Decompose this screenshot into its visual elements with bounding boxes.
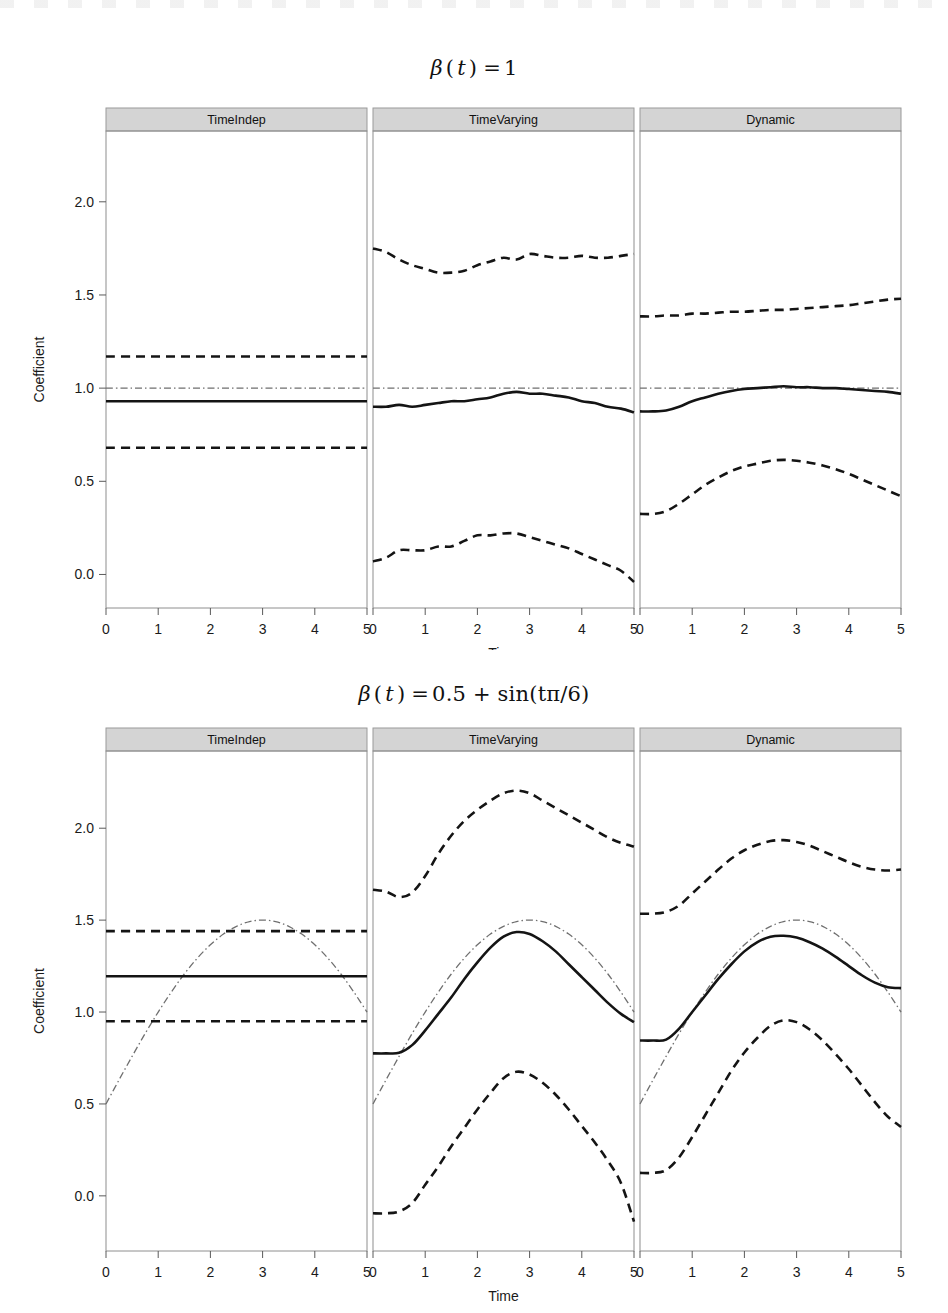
title-paren-close: ) (466, 56, 480, 80)
x-tick-label: 3 (526, 621, 534, 637)
x-tick-label: 2 (207, 621, 215, 637)
figure-1-title: β(t)=1 (0, 0, 948, 80)
x-tick-label: 4 (311, 621, 319, 637)
x-tick-label: 3 (526, 1264, 534, 1280)
strip-label: Dynamic (746, 733, 795, 747)
x-tick-label: 5 (897, 621, 905, 637)
strip-label: TimeIndep (207, 113, 266, 127)
series-estimate (373, 392, 634, 413)
series-truth (106, 920, 367, 1104)
series-lower (373, 533, 634, 582)
title-t: t (385, 682, 394, 706)
title-equals: = (480, 56, 504, 80)
x-tick-label: 1 (688, 1264, 696, 1280)
series-upper (373, 791, 634, 898)
panel-frame (640, 751, 901, 1251)
x-tick-label: 5 (897, 1264, 905, 1280)
panel-timevarying: TimeVarying012345Time (369, 728, 638, 1304)
x-tick-label: 1 (421, 1264, 429, 1280)
x-tick-label: 0 (636, 1264, 644, 1280)
title-equals: = (408, 682, 432, 706)
panel-frame (106, 131, 367, 608)
x-tick-label: 4 (845, 621, 853, 637)
strip-label: TimeVarying (469, 113, 538, 127)
series-upper (640, 299, 901, 317)
figure-beta-constant: β(t)=1 TimeIndep0123450.00.51.01.52.0Coe… (0, 0, 948, 660)
series-estimate (640, 386, 901, 411)
x-tick-label: 3 (259, 621, 267, 637)
x-axis-title: Time (488, 645, 519, 650)
panel-dynamic: Dynamic012345 (636, 108, 905, 637)
x-tick-label: 3 (793, 621, 801, 637)
y-tick-label: 0.5 (75, 473, 95, 489)
title-paren-open: ( (371, 682, 385, 706)
panel-frame (373, 751, 634, 1251)
x-tick-label: 2 (207, 1264, 215, 1280)
series-estimate (640, 936, 901, 1041)
figure-beta-sine: β(t)=0.5 + sin(tπ/6) TimeIndep0123450.00… (0, 660, 948, 1313)
x-tick-label: 2 (741, 621, 749, 637)
series-upper (640, 840, 901, 914)
series-truth (640, 920, 901, 1104)
x-tick-label: 3 (793, 1264, 801, 1280)
panel-frame (640, 131, 901, 608)
x-tick-label: 4 (578, 621, 586, 637)
x-tick-label: 2 (474, 621, 482, 637)
x-tick-label: 1 (154, 1264, 162, 1280)
x-tick-label: 4 (311, 1264, 319, 1280)
figure-1-plot-area: TimeIndep0123450.00.51.01.52.0Coefficien… (0, 80, 948, 650)
y-tick-label: 0.5 (75, 1096, 95, 1112)
x-tick-label: 1 (421, 621, 429, 637)
y-tick-label: 0.0 (75, 566, 95, 582)
series-lower (640, 460, 901, 514)
series-estimate (373, 932, 634, 1054)
x-tick-label: 3 (259, 1264, 267, 1280)
series-truth (373, 920, 634, 1104)
x-tick-label: 0 (102, 621, 110, 637)
strip-label: TimeIndep (207, 733, 266, 747)
x-tick-label: 0 (369, 1264, 377, 1280)
x-tick-label: 4 (845, 1264, 853, 1280)
figure-2-title: β(t)=0.5 + sin(tπ/6) (0, 660, 948, 706)
panel-dynamic: Dynamic012345 (636, 728, 905, 1280)
y-tick-label: 0.0 (75, 1188, 95, 1204)
x-tick-label: 0 (636, 621, 644, 637)
x-tick-label: 4 (578, 1264, 586, 1280)
y-tick-label: 1.0 (75, 380, 95, 396)
panel-timeindep: TimeIndep0123450.00.51.01.52.0Coefficien… (31, 108, 371, 637)
x-tick-label: 2 (474, 1264, 482, 1280)
panel-frame (373, 131, 634, 608)
title-paren-close: ) (394, 682, 408, 706)
title-beta: β (430, 56, 442, 80)
strip-label: Dynamic (746, 113, 795, 127)
x-tick-label: 0 (369, 621, 377, 637)
title-paren-open: ( (443, 56, 457, 80)
y-axis-title: Coefficient (31, 968, 47, 1034)
y-tick-label: 1.5 (75, 287, 95, 303)
series-upper (373, 248, 634, 273)
x-tick-label: 2 (741, 1264, 749, 1280)
x-tick-label: 0 (102, 1264, 110, 1280)
title-t: t (457, 56, 466, 80)
x-tick-label: 1 (688, 621, 696, 637)
y-tick-label: 2.0 (75, 820, 95, 836)
title-rhs: 1 (504, 56, 518, 80)
y-tick-label: 1.5 (75, 912, 95, 928)
panel-timevarying: TimeVarying012345Time (369, 108, 638, 650)
x-tick-label: 1 (154, 621, 162, 637)
strip-label: TimeVarying (469, 733, 538, 747)
panel-timeindep: TimeIndep0123450.00.51.01.52.0Coefficien… (31, 728, 371, 1280)
y-tick-label: 1.0 (75, 1004, 95, 1020)
panel-frame (106, 751, 367, 1251)
y-tick-label: 2.0 (75, 194, 95, 210)
figure-2-plot-area: TimeIndep0123450.00.51.01.52.0Coefficien… (0, 706, 948, 1306)
title-beta: β (358, 682, 370, 706)
y-axis-title: Coefficient (31, 336, 47, 402)
x-axis-title: Time (488, 1288, 519, 1304)
title-rhs: 0.5 + sin(tπ/6) (432, 682, 589, 706)
series-lower (373, 1072, 634, 1222)
series-lower (640, 1020, 901, 1173)
